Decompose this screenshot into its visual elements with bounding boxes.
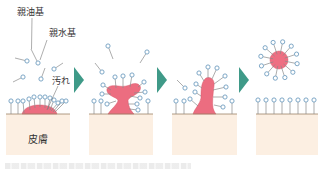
surfactant-molecule [312,98,316,114]
surfactant-molecule [9,99,13,114]
hydrophilic-head [295,62,299,66]
surfactant-molecule [230,99,234,114]
skin-block-2 [89,114,153,155]
surfactant-molecule [288,98,292,114]
hydrophilic-head [281,40,285,44]
hydrophilic-head [256,98,260,102]
surfactant-cleaning-diagram: 親油基 親水基 汚れ 皮膚 [0,0,325,172]
lipophilic-tail [95,63,101,70]
surfactant-molecule [182,99,186,114]
label-skin: 皮膚 [28,133,48,145]
hydrophilic-head [21,75,25,79]
hydrophilic-head [25,59,29,63]
hydrophilic-head [39,77,43,81]
hydrophilic-head [113,75,117,79]
lipophilic-tail [177,80,184,87]
hydrophilic-head [38,95,42,99]
hydrophilic-head [130,73,134,77]
hydrophilic-head [193,90,197,94]
label-dirt: 汚れ [52,75,70,86]
label-hydrophilic-group: 親水基 [49,27,76,38]
hydrophilic-head [100,92,104,96]
surfactant-molecule [16,99,20,114]
hydrophilic-head [100,70,104,74]
hydrophilic-head [9,99,13,103]
hydrophilic-head [230,99,234,103]
hydrophilic-head [146,99,150,103]
lipophilic-tail [212,70,216,79]
leader-hydrophilic [40,40,47,60]
lipophilic-tail [200,75,204,81]
hydrophilic-head [101,83,105,87]
surfactant-molecule [197,71,204,81]
hydrophilic-head [272,98,276,102]
hydrophilic-head [294,52,298,56]
surfactant-molecule [213,95,227,99]
hydrophilic-head [304,98,308,102]
lipophilic-tail [267,49,275,56]
label-lipophilic-group: 親油基 [17,6,44,17]
hydrophilic-head [121,74,125,78]
hydrophilic-head [21,99,25,103]
skin-block-4 [256,114,318,155]
lipophilic-tail [214,77,223,84]
lipophilic-tail [42,68,45,77]
hydrophilic-head [224,85,228,89]
surfactant-molecule [99,99,103,114]
surfactant-molecule [106,44,113,59]
surfactant-molecule [265,64,275,75]
hydrophilic-head [221,105,225,109]
lipophilic-tail [140,54,146,63]
hydrophilic-head [288,98,292,102]
surfactant-molecule [256,98,260,114]
surfactant-molecule [177,80,187,90]
hydrophilic-head [259,64,263,68]
hydrophilic-head [136,108,140,112]
hydrophilic-head [105,102,109,106]
hydrophilic-head [223,95,227,99]
skin-blocks [6,114,318,155]
lipophilic-tail [56,63,63,68]
hydrophilic-head [16,99,20,103]
surfactant-molecule [296,98,300,114]
lipophilic-tail [283,48,290,56]
hydrophilic-head [174,99,178,103]
hydrophilic-head [135,102,139,106]
hydrophilic-head [289,44,293,48]
lipophilic-tail [109,101,116,103]
surfactant-molecule [206,65,210,78]
lipophilic-tail [192,100,198,106]
surfactant-molecule [39,68,45,81]
lipophilic-tail [31,49,37,61]
hydrophilic-head [263,46,267,50]
surfactant-molecule [15,58,29,63]
hydrophilic-head [194,82,198,86]
surfactant-molecule [52,63,63,71]
surfactant-molecule [13,75,25,82]
hydrophilic-head [265,72,269,76]
hydrophilic-head [32,95,36,99]
lipophilic-tail [214,105,221,107]
hydrophilic-head [264,98,268,102]
surfactant-molecule [214,105,225,109]
surfactant-molecule [304,98,308,114]
hydrophilic-head [183,86,187,90]
hydrophilic-head [36,61,40,65]
arrow-right-icon [74,67,84,93]
surfactant-molecule [214,74,227,84]
lipophilic-tail [197,93,201,96]
hydrophilic-head [27,97,31,101]
hydrophilic-head [296,98,300,102]
hydrophilic-head [64,99,68,103]
hydrophilic-head [223,74,227,78]
surfactant-molecule [283,64,294,74]
surfactant-molecule [264,98,268,114]
hydrophilic-head [271,40,275,44]
lipophilic-tail [213,87,224,90]
surfactant-molecule [92,99,96,114]
skin-block-3 [172,114,237,155]
surfactant-molecule [193,90,201,96]
lipophilic-tail [283,64,291,71]
surfactant-molecule [140,50,149,63]
hydrophilic-head [48,96,52,100]
